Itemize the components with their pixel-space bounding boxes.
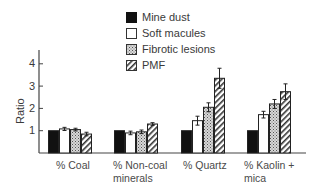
bar [115, 131, 125, 153]
bar [126, 133, 136, 153]
bar [204, 107, 214, 153]
hatched-swatch-icon [126, 60, 137, 71]
white-swatch-icon [126, 28, 137, 39]
y-axis-label: Ratio [14, 98, 26, 124]
bar [71, 130, 81, 153]
y-tick-1: 1 [29, 124, 35, 136]
legend: Mine dust Soft macules Fibrotic lesions … [126, 9, 215, 73]
y-tick-3: 3 [29, 80, 35, 92]
bar [281, 92, 291, 153]
bar [215, 78, 225, 153]
dotted-swatch-icon [126, 44, 137, 55]
legend-item-fibrotic-lesions: Fibrotic lesions [126, 41, 215, 57]
legend-item-soft-macules: Soft macules [126, 25, 215, 41]
bar [248, 131, 258, 153]
y-tick-4: 4 [29, 57, 35, 69]
solid-black-swatch-icon [126, 12, 137, 23]
bar [270, 104, 280, 153]
bar [137, 132, 147, 153]
legend-item-pmf: PMF [126, 57, 215, 73]
category-label-non-coal-minerals: % Non-coal minerals [113, 159, 167, 185]
category-label-quartz: % Quartz [183, 159, 227, 172]
category-label-coal: % Coal [56, 159, 90, 172]
legend-item-mine-dust: Mine dust [126, 9, 215, 25]
bars [49, 68, 291, 153]
bar [148, 124, 158, 153]
bar [49, 131, 59, 153]
bar [182, 131, 192, 153]
category-label-kaolin-mica: % Kaolin + mica [244, 159, 295, 185]
bar [82, 134, 92, 153]
bar [259, 115, 269, 153]
bar [60, 129, 70, 153]
y-tick-2: 2 [29, 102, 35, 114]
